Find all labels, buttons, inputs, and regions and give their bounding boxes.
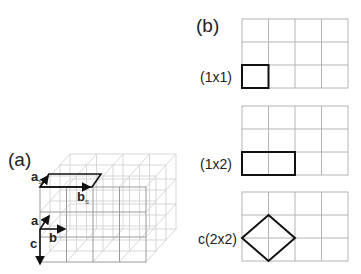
panel-b-label: (b) — [196, 15, 219, 36]
grid-1x2 — [242, 106, 348, 175]
as-label: as — [31, 169, 42, 186]
panel-a-label: (a) — [8, 149, 31, 170]
a-vector-arrow — [40, 216, 49, 229]
unit-cell-1x1 — [242, 65, 269, 88]
bs-label: bs — [77, 189, 89, 206]
grid-1x1 — [242, 19, 348, 88]
grid-c2x2 — [242, 192, 348, 261]
b-label: b — [49, 230, 57, 245]
c-label: c — [30, 236, 37, 251]
label-c2x2: c(2x2) — [198, 231, 237, 247]
lattice-back-layers — [40, 154, 176, 262]
figure-canvas: (a) — [0, 0, 361, 274]
label-1x2: (1x2) — [200, 156, 232, 172]
bulk-lattice — [40, 154, 176, 262]
label-1x1: (1x1) — [200, 69, 232, 85]
a-label: a — [31, 213, 39, 228]
